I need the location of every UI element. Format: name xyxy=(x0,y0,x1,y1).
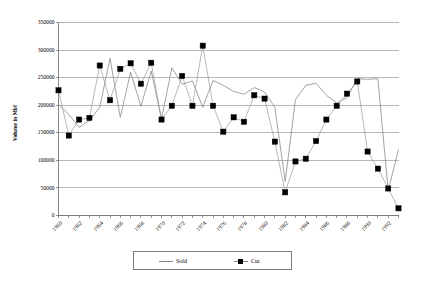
legend-marker-swatch-icon xyxy=(234,258,248,264)
legend-line-swatch-icon xyxy=(159,261,173,262)
legend-label-sold: Sold xyxy=(176,258,187,264)
chart-legend: Sold Cut xyxy=(133,251,292,270)
legend-item-sold: Sold xyxy=(159,258,187,264)
plot-area xyxy=(0,0,428,283)
chart-container: Volume in Mbf 05000010000015000020000025… xyxy=(0,0,428,283)
gridlines xyxy=(59,23,399,216)
axis-lines xyxy=(59,23,399,216)
legend-label-cut: Cut xyxy=(251,258,260,264)
series-line-cut xyxy=(59,46,399,209)
legend-item-cut: Cut xyxy=(234,258,260,264)
